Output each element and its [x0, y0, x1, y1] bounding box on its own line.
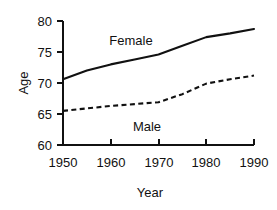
x-tick-label-1960: 1960 — [97, 155, 126, 170]
series-label-male: Male — [133, 119, 161, 134]
series-label-female: Female — [109, 33, 152, 48]
chart-plot-area: 80 75 70 65 60 1950 1960 1970 1980 1990 … — [0, 0, 277, 210]
x-tick-label-1950: 1950 — [49, 155, 78, 170]
x-tick-label-1990: 1990 — [240, 155, 269, 170]
y-tick-label-60: 60 — [38, 138, 52, 153]
y-tick-label-75: 75 — [38, 45, 52, 60]
x-tick-label-1980: 1980 — [192, 155, 221, 170]
life-expectancy-line-chart: 80 75 70 65 60 1950 1960 1970 1980 1990 … — [0, 0, 277, 210]
y-tick-label-65: 65 — [38, 107, 52, 122]
y-tick-label-80: 80 — [38, 14, 52, 29]
y-tick-label-70: 70 — [38, 76, 52, 91]
series-line-male — [63, 76, 254, 111]
x-axis-title: Year — [137, 185, 164, 200]
series-line-female — [63, 29, 254, 79]
y-axis-title: Age — [16, 71, 31, 94]
x-tick-label-1970: 1970 — [145, 155, 174, 170]
